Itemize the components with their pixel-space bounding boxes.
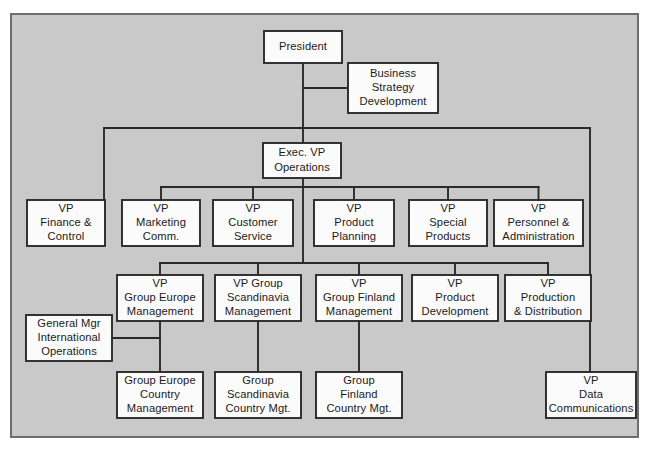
node-label-vp-product-plan: Planning: [332, 230, 376, 242]
node-label-vp-special: Products: [426, 230, 471, 242]
org-node-vp-marketing[interactable]: VPMarketingComm.: [122, 200, 200, 246]
org-node-group-finland-ctry[interactable]: GroupFinlandCountry Mgt.: [316, 372, 402, 418]
node-label-vp-product-dev: Development: [421, 305, 489, 317]
node-label-vp-special: VP: [440, 202, 455, 214]
node-label-vp-production: & Distribution: [514, 305, 582, 317]
node-label-vp-group-scand: VP Group: [233, 277, 283, 289]
org-chart-svg: PresidentBusinessStrategyDevelopmentExec…: [0, 0, 652, 449]
org-node-vp-personnel[interactable]: VPPersonnel &Administration: [494, 200, 583, 246]
org-node-vp-finance[interactable]: VPFinance &Control: [27, 200, 105, 246]
org-node-group-scand-ctry[interactable]: GroupScandinaviaCountry Mgt.: [215, 372, 301, 418]
node-label-vp-group-europe: Group Europe: [124, 291, 195, 303]
node-label-vp-personnel: Administration: [502, 230, 574, 242]
org-node-vp-data-comm[interactable]: VPDataCommunications: [546, 372, 636, 418]
org-node-vp-product-dev[interactable]: VPProductDevelopment: [412, 275, 498, 321]
node-label-group-finland-ctry: Finland: [340, 388, 377, 400]
node-label-vp-product-plan: VP: [346, 202, 361, 214]
node-label-vp-personnel: Personnel &: [507, 216, 569, 228]
node-label-vp-group-finland: Management: [326, 305, 393, 317]
org-node-exec-vp-ops[interactable]: Exec. VPOperations: [263, 143, 341, 178]
node-label-group-europe-ctry: Group Europe: [124, 374, 195, 386]
node-label-vp-product-dev: VP: [447, 277, 462, 289]
node-label-vp-production: VP: [540, 277, 555, 289]
node-label-group-scand-ctry: Scandinavia: [227, 388, 290, 400]
org-node-vp-customer[interactable]: VPCustomerService: [213, 200, 293, 246]
org-node-group-europe-ctry[interactable]: Group EuropeCountryManagement: [117, 372, 203, 418]
node-label-vp-product-plan: Product: [334, 216, 374, 228]
node-label-group-finland-ctry: Group: [343, 374, 375, 386]
node-label-group-europe-ctry: Management: [127, 402, 194, 414]
org-node-general-mgr[interactable]: General MgrInternationalOperations: [26, 315, 112, 361]
node-label-vp-personnel: VP: [531, 202, 546, 214]
node-label-vp-data-comm: VP: [583, 374, 598, 386]
node-label-general-mgr: International: [38, 331, 101, 343]
org-node-vp-product-plan[interactable]: VPProductPlanning: [314, 200, 394, 246]
org-node-vp-group-europe[interactable]: VPGroup EuropeManagement: [117, 275, 203, 321]
org-node-vp-production[interactable]: VPProduction& Distribution: [505, 275, 591, 321]
node-label-group-finland-ctry: Country Mgt.: [326, 402, 391, 414]
org-node-business-strategy[interactable]: BusinessStrategyDevelopment: [348, 63, 438, 113]
node-label-vp-finance: VP: [58, 202, 73, 214]
node-label-vp-special: Special: [429, 216, 466, 228]
org-chart-container: PresidentBusinessStrategyDevelopmentExec…: [0, 0, 652, 449]
org-node-president[interactable]: President: [264, 31, 342, 63]
node-label-vp-customer: Service: [234, 230, 272, 242]
node-label-vp-group-europe: Management: [127, 305, 194, 317]
node-label-business-strategy: Development: [359, 95, 427, 107]
node-label-vp-customer: Customer: [228, 216, 277, 228]
node-label-vp-finance: Finance &: [40, 216, 92, 228]
node-label-vp-group-finland: Group Finland: [323, 291, 395, 303]
node-label-business-strategy: Business: [370, 67, 417, 79]
node-label-vp-finance: Control: [48, 230, 85, 242]
node-label-vp-product-dev: Product: [435, 291, 475, 303]
node-label-exec-vp-ops: Exec. VP: [279, 146, 326, 158]
node-label-vp-data-comm: Data: [579, 388, 604, 400]
node-label-vp-production: Production: [521, 291, 576, 303]
node-label-vp-customer: VP: [245, 202, 260, 214]
org-node-vp-group-scand[interactable]: VP GroupScandinaviaManagement: [215, 275, 301, 321]
node-label-group-scand-ctry: Country Mgt.: [225, 402, 290, 414]
node-label-vp-data-comm: Communications: [549, 402, 634, 414]
org-node-vp-special[interactable]: VPSpecialProducts: [409, 200, 487, 246]
node-label-vp-group-scand: Scandinavia: [227, 291, 290, 303]
node-label-vp-marketing: VP: [153, 202, 168, 214]
node-label-general-mgr: General Mgr: [37, 317, 100, 329]
node-label-group-scand-ctry: Group: [242, 374, 274, 386]
node-label-group-europe-ctry: Country: [140, 388, 180, 400]
node-label-vp-group-finland: VP: [351, 277, 366, 289]
node-label-vp-group-scand: Management: [225, 305, 292, 317]
node-label-vp-marketing: Comm.: [143, 230, 180, 242]
node-label-president: President: [279, 40, 328, 52]
node-label-exec-vp-ops: Operations: [274, 161, 330, 173]
node-label-vp-marketing: Marketing: [136, 216, 186, 228]
node-label-general-mgr: Operations: [41, 345, 97, 357]
node-label-business-strategy: Strategy: [372, 81, 415, 93]
org-node-vp-group-finland[interactable]: VPGroup FinlandManagement: [316, 275, 402, 321]
node-label-vp-group-europe: VP: [152, 277, 167, 289]
